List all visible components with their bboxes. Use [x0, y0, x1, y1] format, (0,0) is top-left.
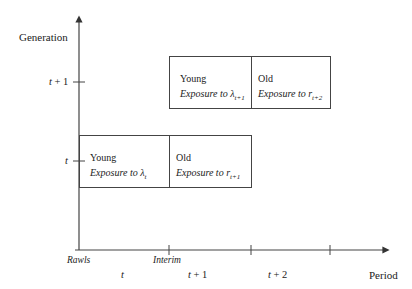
x-tick-label-rawls: Rawls [67, 256, 90, 266]
x-period-label-t-plus-2: t + 2 [268, 270, 287, 281]
y-tick-label-t-plus-1: t + 1 [49, 77, 68, 88]
young-cell: Young Exposure to λt [80, 136, 169, 187]
x-period-label-t-plus-1: t + 1 [188, 270, 207, 281]
old-exposure: Exposure to rt+1 [176, 165, 251, 183]
x-period-label-t: t [121, 270, 124, 281]
x-axis-label: Period [369, 270, 398, 281]
old-cell: Old Exposure to rt+1 [169, 136, 251, 187]
y-tick-label-t: t [65, 156, 68, 167]
x-tick-label-interim: Interim [153, 256, 181, 266]
young-exposure: Exposure to λt+1 [180, 86, 251, 104]
y-axis-label: Generation [19, 32, 68, 43]
generation-t-box: Young Exposure to λt Old Exposure to rt+… [79, 135, 252, 188]
generation-t-plus-1-box: Young Exposure to λt+1 Old Exposure to r… [169, 56, 331, 109]
young-title: Young [90, 150, 169, 165]
old-exposure: Exposure to rt+2 [258, 86, 330, 104]
young-title: Young [180, 71, 251, 86]
young-exposure: Exposure to λt [90, 165, 169, 183]
young-cell: Young Exposure to λt+1 [170, 57, 251, 108]
old-title: Old [176, 150, 251, 165]
old-cell: Old Exposure to rt+2 [251, 57, 330, 108]
old-title: Old [258, 71, 330, 86]
